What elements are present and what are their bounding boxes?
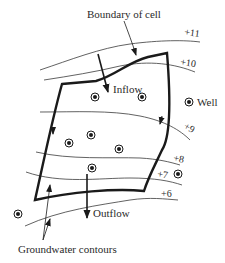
boundary-direction-arrow-right [160, 116, 162, 124]
contour-lines [25, 41, 200, 226]
well-icon [14, 210, 22, 218]
well-legend-label: Well [197, 96, 218, 108]
inflow-arrow [98, 54, 108, 92]
well-icon [174, 170, 182, 178]
well-icon [87, 131, 95, 139]
outflow-label: Outflow [93, 207, 130, 219]
inflow-label: Inflow [113, 83, 142, 95]
well-icon [91, 93, 99, 101]
well-icon [88, 164, 96, 172]
contour-label-11: +11 [184, 26, 201, 39]
well-legend: Well [185, 96, 218, 108]
well-icon [65, 139, 73, 147]
well-legend-icon [185, 98, 193, 106]
contour-label-10: +10 [180, 56, 197, 69]
contour-label-9: +9 [182, 120, 197, 135]
boundary-pointer-arrow [124, 21, 136, 55]
contour-label-6: +6 [161, 188, 172, 199]
boundary-label: Boundary of cell [87, 8, 161, 20]
contour-label-8: +8 [173, 152, 185, 165]
contours-label: Groundwater contours [18, 243, 117, 255]
contour-label-7: +7 [157, 168, 169, 180]
groundwater-cell-diagram: Boundary of cell Inflow Outflow Well +11… [0, 0, 225, 263]
well-icon [115, 145, 123, 153]
contours-pointer-arrow-upper [43, 185, 50, 240]
